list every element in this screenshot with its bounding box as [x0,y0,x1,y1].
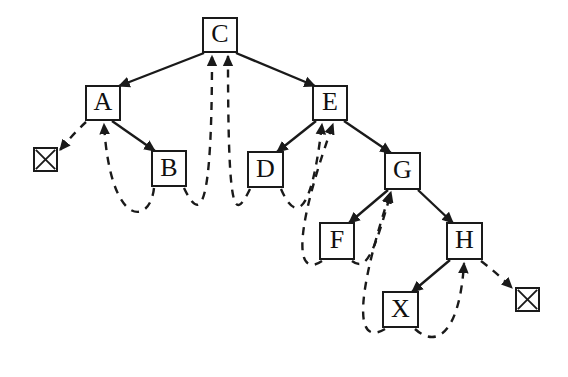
edge-H-X [412,260,450,292]
thread-H-null [481,261,512,288]
null-pointer-marker-left [33,147,58,172]
tree-node-C[interactable]: C [202,17,238,53]
tree-node-G[interactable]: G [384,152,421,190]
tree-node-C-label: C [211,21,228,47]
tree-node-X-label: X [391,296,410,322]
tree-node-E[interactable]: E [312,85,348,121]
tree-node-B[interactable]: B [151,150,187,187]
edge-E-D [277,121,316,152]
edge-A-B [112,121,155,151]
null-pointer-marker-right [515,287,540,312]
tree-node-H[interactable]: H [446,222,483,260]
thread-X-H [415,263,464,337]
cross-icon [35,149,56,170]
edge-C-E [236,53,315,86]
tree-node-A-label: A [94,89,113,115]
tree-diagram-canvas: C A E B D G F H X [0,0,568,377]
tree-node-X[interactable]: X [382,291,419,328]
tree-node-D-label: D [256,156,275,182]
tree-node-D[interactable]: D [247,151,284,188]
thread-B-A [104,124,154,212]
edge-C-A [119,53,204,86]
edge-G-F [349,190,388,223]
thread-D-E [281,124,322,208]
tree-node-G-label: G [393,157,412,183]
thread-A-null [60,122,86,150]
tree-node-F-label: F [330,227,344,253]
tree-edges-layer [0,0,568,377]
tree-node-E-label: E [322,89,338,115]
tree-node-F[interactable]: F [319,222,355,260]
edge-G-H [418,190,453,223]
tree-node-H-label: H [455,227,474,253]
tree-node-A[interactable]: A [85,85,121,121]
tree-node-B-label: B [160,155,177,181]
cross-icon [517,289,538,310]
edge-E-G [344,121,391,153]
thread-B-C [184,56,212,205]
